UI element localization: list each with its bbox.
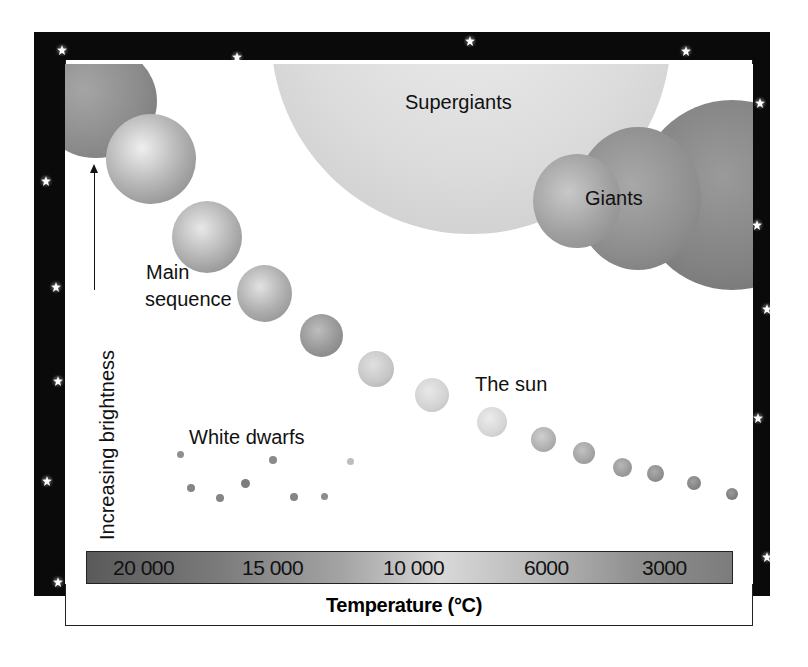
white-dwarf bbox=[177, 451, 184, 458]
main-sequence-star-9 bbox=[573, 442, 595, 464]
main-sequence-star-5 bbox=[358, 351, 394, 387]
star-icon bbox=[39, 174, 53, 188]
star-icon bbox=[40, 474, 54, 488]
white-dwarf bbox=[187, 484, 195, 492]
star-icon bbox=[753, 96, 767, 110]
plot-area: Supergiants Giants Main sequence The sun… bbox=[65, 64, 753, 584]
white-dwarf bbox=[216, 494, 224, 502]
main-sequence-star-10 bbox=[613, 458, 632, 477]
label-giants: Giants bbox=[585, 187, 643, 209]
label-main-sequence-2: sequence bbox=[145, 288, 232, 310]
star-icon bbox=[51, 575, 65, 589]
star-icon bbox=[679, 44, 693, 58]
label-supergiants: Supergiants bbox=[405, 91, 512, 113]
star-icon bbox=[463, 34, 477, 48]
label-white-dwarfs: White dwarfs bbox=[189, 426, 305, 448]
main-sequence-star-3 bbox=[237, 265, 292, 322]
white-dwarf bbox=[269, 456, 277, 464]
sun-star bbox=[477, 407, 507, 437]
tick-15000: 15 000 bbox=[242, 556, 303, 580]
main-sequence-star-12 bbox=[687, 476, 701, 490]
white-dwarf bbox=[321, 493, 328, 500]
star-icon bbox=[751, 411, 765, 425]
temperature-scale: 20 000 15 000 10 000 6000 3000 bbox=[86, 551, 733, 584]
label-main-sequence-1: Main bbox=[146, 261, 189, 283]
main-sequence-star-4 bbox=[300, 314, 343, 357]
main-sequence-star-11 bbox=[647, 465, 664, 482]
star-icon bbox=[55, 43, 69, 57]
main-sequence-star-1 bbox=[106, 114, 196, 204]
main-sequence-star-13 bbox=[726, 488, 738, 500]
star-icon bbox=[49, 280, 63, 294]
tick-6000: 6000 bbox=[524, 556, 569, 580]
white-dwarf bbox=[290, 493, 298, 501]
tick-20000: 20 000 bbox=[113, 556, 174, 580]
x-axis-title: Temperature (°C) bbox=[0, 594, 808, 617]
star-icon bbox=[230, 50, 244, 64]
tick-10000: 10 000 bbox=[383, 556, 444, 580]
white-dwarf bbox=[241, 479, 250, 488]
white-dwarf bbox=[347, 458, 354, 465]
tick-3000: 3000 bbox=[642, 556, 687, 580]
star-icon bbox=[760, 550, 774, 564]
y-axis-arrow bbox=[94, 172, 95, 290]
main-sequence-star-6 bbox=[415, 378, 449, 412]
y-axis-label: Increasing brightness bbox=[96, 350, 119, 540]
star-icon bbox=[51, 374, 65, 388]
star-icon bbox=[760, 302, 774, 316]
main-sequence-star-8 bbox=[531, 427, 556, 452]
label-sun: The sun bbox=[475, 373, 547, 395]
